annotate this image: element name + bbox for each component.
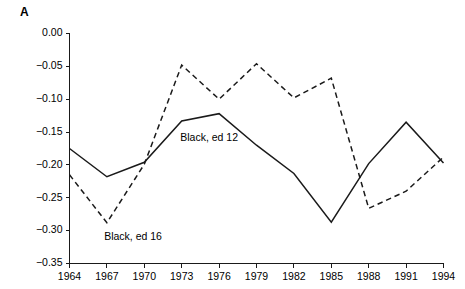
series-annotations: Black, ed 12Black, ed 16	[104, 131, 238, 242]
x-tick-label: 1985	[320, 270, 344, 282]
y-tick-label: −0.25	[36, 191, 63, 203]
line-chart: 0.00−0.05−0.10−0.15−0.20−0.25−0.30−0.35 …	[0, 0, 465, 289]
x-tick-label: 1979	[245, 270, 269, 282]
series-line-black-ed-12	[70, 114, 444, 222]
x-axis: 1964196719701973197619791982198519881991…	[58, 264, 456, 282]
y-tick-label: −0.30	[36, 223, 63, 235]
series-label: Black, ed 16	[104, 230, 162, 242]
y-tick-label: 0.00	[42, 26, 63, 38]
x-tick-label: 1967	[95, 270, 119, 282]
y-tick-label: −0.20	[36, 158, 63, 170]
x-tick-label: 1970	[133, 270, 157, 282]
x-tick-label: 1973	[170, 270, 194, 282]
x-tick-label: 1988	[357, 270, 381, 282]
y-axis: 0.00−0.05−0.10−0.15−0.20−0.25−0.30−0.35	[36, 26, 70, 268]
x-tick-label: 1976	[207, 270, 231, 282]
data-series-group	[70, 64, 444, 223]
y-tick-label: −0.05	[36, 59, 63, 71]
x-tick-label: 1994	[432, 270, 456, 282]
x-tick-label: 1991	[394, 270, 418, 282]
series-label: Black, ed 12	[180, 131, 238, 143]
y-tick-label: −0.15	[36, 125, 63, 137]
x-tick-label: 1964	[58, 270, 82, 282]
x-tick-label: 1982	[282, 270, 306, 282]
figure-panel-a: A 0.00−0.05−0.10−0.15−0.20−0.25−0.30−0.3…	[0, 0, 465, 289]
y-tick-label: −0.10	[36, 92, 63, 104]
y-tick-label: −0.35	[36, 256, 63, 268]
